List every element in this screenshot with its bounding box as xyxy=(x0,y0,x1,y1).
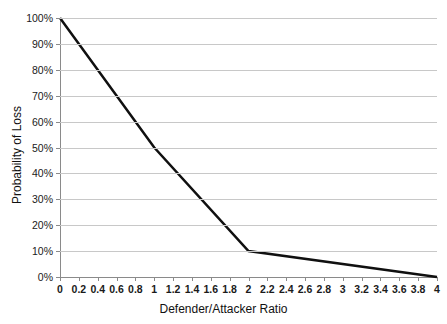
x-tick-label: 2.6 xyxy=(298,283,313,295)
x-tick-mark xyxy=(249,277,250,281)
x-tick-mark xyxy=(154,277,155,281)
x-tick-label: 3 xyxy=(340,283,346,295)
y-tick-label: 70% xyxy=(32,90,53,102)
chart-container: · · 0%10%20%30%40%50%60%70%80%90%100% 00… xyxy=(0,0,447,324)
x-axis-label: Defender/Attacker Ratio xyxy=(0,302,447,316)
x-tick-label: 0.6 xyxy=(109,283,124,295)
y-tick-mark xyxy=(56,18,60,19)
x-tick-label: 3.8 xyxy=(411,283,426,295)
x-tick-mark xyxy=(437,277,438,281)
x-tick-mark xyxy=(79,277,80,281)
x-tick-mark xyxy=(267,277,268,281)
x-tick-mark xyxy=(117,277,118,281)
gridline-horizontal xyxy=(60,148,437,149)
x-tick-mark xyxy=(418,277,419,281)
x-tick-label: 3.2 xyxy=(354,283,369,295)
gridline-horizontal xyxy=(60,44,437,45)
plot-area xyxy=(60,18,437,277)
x-tick-label: 3.6 xyxy=(392,283,407,295)
x-tick-mark xyxy=(343,277,344,281)
y-tick-mark xyxy=(56,44,60,45)
y-tick-mark xyxy=(56,199,60,200)
y-tick-mark xyxy=(56,96,60,97)
x-tick-label: 2.8 xyxy=(317,283,332,295)
x-tick-label: 2.4 xyxy=(279,283,294,295)
y-tick-label: 90% xyxy=(32,38,53,50)
x-tick-label: 2 xyxy=(246,283,252,295)
y-tick-label: 20% xyxy=(32,219,53,231)
cropped-title-fragment: · · xyxy=(0,0,447,4)
x-tick-label: 1.4 xyxy=(185,283,200,295)
gridline-horizontal xyxy=(60,18,437,19)
x-tick-mark xyxy=(324,277,325,281)
x-tick-mark xyxy=(230,277,231,281)
y-tick-mark xyxy=(56,148,60,149)
x-tick-mark xyxy=(98,277,99,281)
x-tick-mark xyxy=(192,277,193,281)
y-tick-label: 40% xyxy=(32,167,53,179)
y-tick-label: 60% xyxy=(32,116,53,128)
x-tick-mark xyxy=(362,277,363,281)
y-tick-label: 0% xyxy=(38,271,53,283)
x-tick-mark xyxy=(305,277,306,281)
gridline-horizontal xyxy=(60,122,437,123)
x-tick-mark xyxy=(211,277,212,281)
x-tick-label: 1.6 xyxy=(203,283,218,295)
y-tick-label: 100% xyxy=(26,12,53,24)
x-tick-mark xyxy=(173,277,174,281)
x-tick-label: 2.2 xyxy=(260,283,275,295)
y-tick-mark xyxy=(56,122,60,123)
x-tick-label: 0.4 xyxy=(90,283,105,295)
y-tick-mark xyxy=(56,70,60,71)
y-tick-mark xyxy=(56,225,60,226)
x-tick-label: 0.8 xyxy=(128,283,143,295)
y-tick-label: 50% xyxy=(32,142,53,154)
gridline-horizontal xyxy=(60,225,437,226)
y-tick-mark xyxy=(56,251,60,252)
x-tick-label: 3.4 xyxy=(373,283,388,295)
gridline-horizontal xyxy=(60,70,437,71)
x-tick-label: 1.8 xyxy=(222,283,237,295)
y-tick-label: 10% xyxy=(32,245,53,257)
x-tick-mark xyxy=(135,277,136,281)
x-tick-label: 4 xyxy=(434,283,440,295)
x-tick-mark xyxy=(60,277,61,281)
y-tick-label: 80% xyxy=(32,64,53,76)
x-tick-mark xyxy=(286,277,287,281)
gridline-horizontal xyxy=(60,199,437,200)
y-axis-label: Probability of Loss xyxy=(10,80,24,230)
gridline-horizontal xyxy=(60,96,437,97)
gridline-horizontal xyxy=(60,251,437,252)
x-tick-label: 1 xyxy=(151,283,157,295)
gridline-horizontal xyxy=(60,173,437,174)
x-tick-label: 1.2 xyxy=(166,283,181,295)
x-tick-mark xyxy=(380,277,381,281)
x-tick-label: 0.2 xyxy=(72,283,87,295)
y-tick-mark xyxy=(56,173,60,174)
y-tick-label: 30% xyxy=(32,193,53,205)
x-tick-label: 0 xyxy=(57,283,63,295)
x-tick-mark xyxy=(399,277,400,281)
